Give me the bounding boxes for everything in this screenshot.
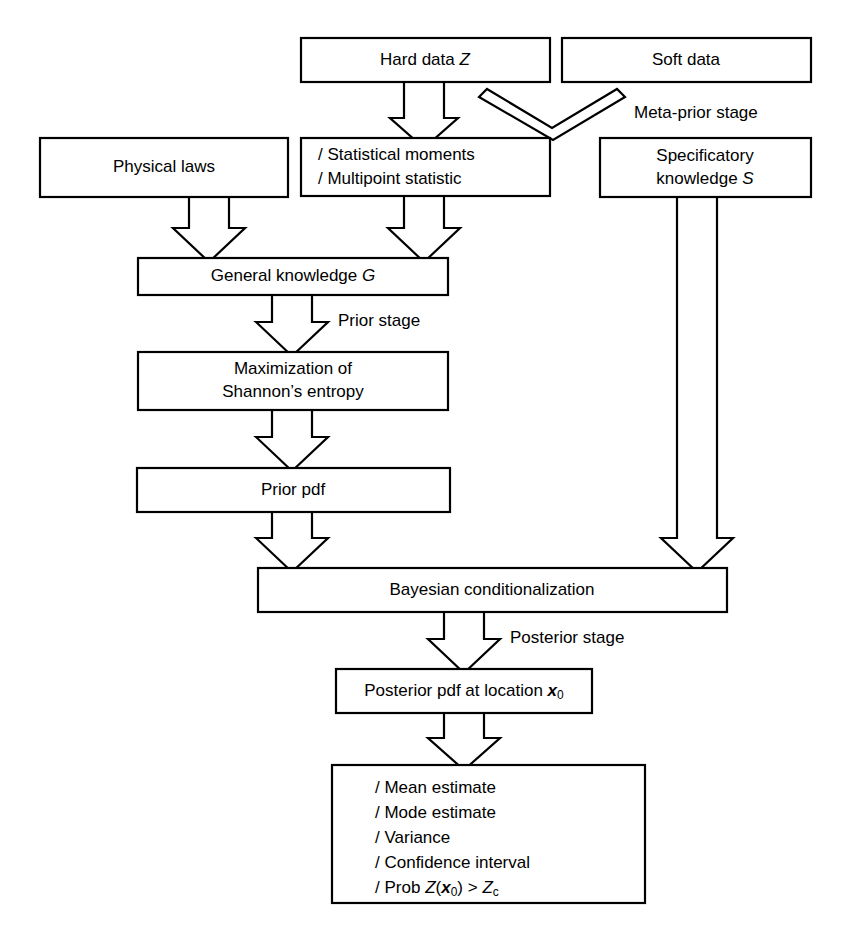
flowchart-diagram: Hard data Z Soft data Meta-prior stage P… <box>0 0 847 948</box>
node-maximization-line-1: Maximization of <box>234 359 352 378</box>
node-output-item-4: / Confidence interval <box>375 853 530 872</box>
node-prior-pdf-label: Prior pdf <box>261 480 326 499</box>
stage-label-meta-prior: Meta-prior stage <box>634 103 758 122</box>
stage-label-prior: Prior stage <box>338 311 420 330</box>
node-output-item-5: / Prob Z(x0) > Zc <box>375 878 499 899</box>
node-specificatory-line-2: knowledge S <box>656 169 754 188</box>
node-output-item-2: / Mode estimate <box>375 803 496 822</box>
stage-label-posterior: Posterior stage <box>510 628 624 647</box>
node-hard-data-label: Hard data Z <box>380 50 470 69</box>
arrow-posterior-pdf-to-outputs <box>428 713 500 770</box>
node-specificatory-line-1: Specificatory <box>656 146 754 165</box>
node-bayesian-label: Bayesian conditionalization <box>389 580 594 599</box>
arrow-general-knowledge-to-maximization <box>256 295 328 356</box>
arrow-prior-pdf-to-bayesian <box>256 512 328 572</box>
node-output-item-1: / Mean estimate <box>375 778 496 797</box>
arrow-specificatory-to-bayesian <box>661 197 733 572</box>
chevron-meta-prior <box>479 89 625 140</box>
node-posterior-pdf-label: Posterior pdf at location x0 <box>364 681 564 702</box>
node-physical-laws-label: Physical laws <box>113 157 215 176</box>
node-maximization-line-2: Shannon’s entropy <box>222 382 364 401</box>
node-statistics-line-1: / Statistical moments <box>318 145 475 164</box>
node-output-item-3: / Variance <box>375 828 450 847</box>
node-general-knowledge-label: General knowledge G <box>211 266 375 285</box>
arrow-bayesian-to-posterior-pdf <box>428 612 500 673</box>
flowchart-root: Hard data Z Soft data Meta-prior stage P… <box>0 0 847 948</box>
node-soft-data-label: Soft data <box>652 50 721 69</box>
arrow-statistics-to-general-knowledge <box>388 196 460 262</box>
arrow-physical-laws-to-general-knowledge <box>173 197 245 262</box>
node-statistics-line-2: / Multipoint statistic <box>318 169 462 188</box>
arrow-maximization-to-prior-pdf <box>256 410 328 471</box>
